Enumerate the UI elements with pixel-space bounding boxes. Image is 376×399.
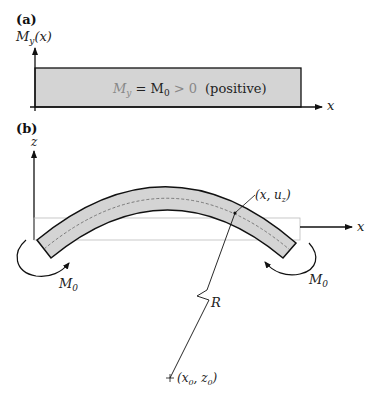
center-label: (x0, z0) [177, 371, 218, 387]
bending-diagram: (a) My(x) x My = M0 > 0(positive) (b) z … [0, 0, 376, 399]
point-label: (x, uz) [255, 188, 291, 204]
panel-b-tag: (b) [16, 121, 37, 136]
panel-a: (a) My(x) x My = M0 > 0(positive) [15, 12, 335, 113]
radius-line [170, 213, 235, 378]
moment-region-label: My = M0 > 0(positive) [112, 81, 267, 98]
panel-b: (b) z x (x, uz) R (x0, z0) [16, 121, 365, 387]
radius-label: R [210, 295, 221, 310]
right-moment-label: M0 [308, 272, 328, 289]
center-marker [166, 374, 174, 382]
panel-a-tag: (a) [16, 12, 37, 27]
z-axis-label: z [30, 135, 38, 149]
x-axis-b-label: x [357, 219, 365, 234]
moment-axis-label: My(x) [15, 29, 52, 46]
left-moment-label: M0 [58, 276, 78, 293]
x-axis-a-label: x [327, 98, 335, 113]
